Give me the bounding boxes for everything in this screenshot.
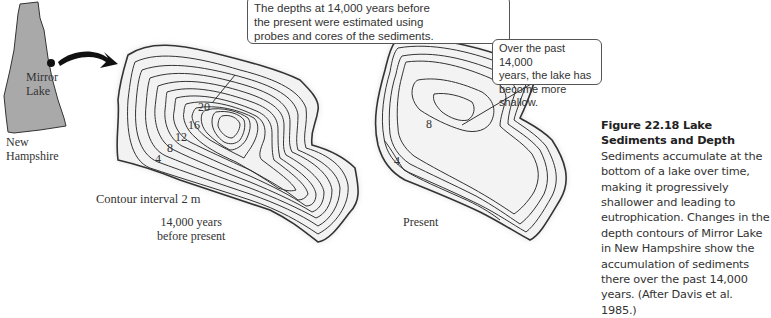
mirror-lake-label-line1: Mirror — [26, 70, 58, 84]
contour-interval-label: Contour interval 2 m — [96, 192, 201, 207]
contour-label-20: 20 — [198, 100, 210, 115]
present-shallow-callout: Over the past 14,000 years, the lake has… — [492, 39, 602, 85]
past-depth-callout: The depths at 14,000 years before the pr… — [247, 0, 510, 44]
present-callout-line3: become more shallow. — [499, 83, 595, 110]
past-time-line2: before present — [157, 229, 225, 243]
past-callout-line1: The depths at 14,000 years before — [254, 1, 503, 15]
past-time-label: 14,000 years before present — [157, 215, 225, 243]
present-contour-label-8: 8 — [426, 117, 432, 132]
figure-caption: Figure 22.18 Lake Sediments and Depth Se… — [601, 118, 771, 318]
state-label-line1: New — [6, 135, 59, 149]
contour-label-8: 8 — [167, 141, 173, 156]
contour-label-16: 16 — [188, 118, 200, 133]
mirror-lake-marker-icon — [47, 59, 55, 67]
new-hampshire-map — [4, 2, 66, 133]
present-contour-label-4: 4 — [394, 154, 400, 169]
past-callout-line2: the present were estimated using — [254, 15, 503, 29]
mirror-lake-label: Mirror Lake — [26, 70, 58, 98]
past-callout-line3: probes and cores of the sediments. — [254, 29, 503, 43]
state-label-line2: Hampshire — [6, 149, 59, 163]
state-label: New Hampshire — [6, 135, 59, 163]
curved-arrow-icon — [58, 52, 118, 68]
present-callout-line2: years, the lake has — [499, 69, 595, 83]
past-lake-contour-map — [117, 45, 358, 242]
past-time-line1: 14,000 years — [157, 215, 225, 229]
figure-number: Figure 22.18 — [601, 119, 683, 132]
present-callout-line1: Over the past 14,000 — [499, 42, 595, 69]
present-time-label: Present — [403, 215, 438, 230]
caption-body: Sediments accumulate at the bottom of a … — [601, 150, 769, 317]
contour-label-4: 4 — [155, 152, 161, 167]
mirror-lake-label-line2: Lake — [26, 84, 58, 98]
contour-label-12: 12 — [175, 130, 187, 145]
